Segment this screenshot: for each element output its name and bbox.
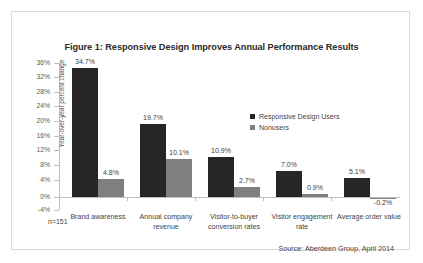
y-axis-tick-label: 0%: [28, 193, 50, 200]
bar-nonusers-visitor-engagement-rate: [302, 194, 328, 197]
y-axis-tick-label: 12%: [28, 146, 50, 153]
y-axis-tick-label: 24%: [28, 102, 50, 109]
x-axis-tick: [263, 197, 264, 201]
bar-responsive-average-order-value: [344, 178, 370, 197]
source-note: Source: Aberdeen Group, April 2014: [12, 244, 394, 253]
x-axis-category-label-average-order-value: Average order value: [326, 213, 412, 223]
x-axis-tick: [331, 197, 332, 201]
y-axis-tick-label: 8%: [28, 161, 50, 168]
x-axis-line: [59, 197, 400, 198]
y-axis-tick-label: 36%: [28, 59, 50, 66]
y-axis-title: Year-over-year percent change: [58, 49, 65, 159]
x-axis-tick: [195, 197, 196, 201]
bar-responsive-annual-company-revenue: [140, 124, 166, 197]
y-axis-tick-label: -4%: [28, 206, 50, 213]
y-axis-tick-label: 28%: [28, 88, 50, 95]
bar-nonusers-annual-company-revenue: [166, 159, 192, 197]
bar-value-label: 5.1%: [332, 168, 382, 175]
bar-value-label: 7.0%: [264, 161, 314, 168]
y-axis-tick: [54, 210, 59, 211]
category-line: Average order value: [326, 213, 412, 223]
bar-value-label: 4.8%: [86, 169, 136, 176]
bar-value-label: 19.7%: [128, 114, 178, 121]
y-axis-tick: [54, 165, 59, 166]
figure-frame: Figure 1: Responsive Design Improves Ann…: [11, 11, 410, 250]
legend-swatch-icon: [250, 114, 255, 119]
chart-legend: Responsive Design Users Nonusers: [250, 111, 340, 133]
x-axis-tick: [127, 197, 128, 201]
bar-value-label: 34.7%: [60, 58, 110, 65]
legend-swatch-icon: [250, 125, 255, 130]
bar-nonusers-visitor-to-buyer-conversion-rates: [234, 187, 260, 197]
y-axis-tick-label: 20%: [28, 117, 50, 124]
sample-size-note: n=151: [48, 218, 68, 225]
bar-nonusers-brand-awareness: [98, 179, 124, 197]
bar-value-label: 10.9%: [196, 147, 246, 154]
bar-value-label: 0.9%: [290, 184, 340, 191]
y-axis-tick: [54, 197, 59, 198]
y-axis-tick-label: 16%: [28, 132, 50, 139]
chart-title: Figure 1: Responsive Design Improves Ann…: [12, 42, 411, 52]
category-line: rate: [261, 223, 343, 233]
y-axis-tick-label: 32%: [28, 73, 50, 80]
legend-label: Responsive Design Users: [259, 113, 340, 120]
legend-item-responsive-design-users: Responsive Design Users: [250, 111, 340, 122]
legend-item-nonusers: Nonusers: [250, 122, 340, 133]
y-axis-tick: [54, 180, 59, 181]
legend-label: Nonusers: [259, 124, 289, 131]
bar-responsive-brand-awareness: [72, 68, 98, 197]
bar-value-label: 2.7%: [222, 177, 272, 184]
bar-value-label: -0.2%: [358, 199, 408, 206]
y-axis-tick-label: 4%: [28, 176, 50, 183]
